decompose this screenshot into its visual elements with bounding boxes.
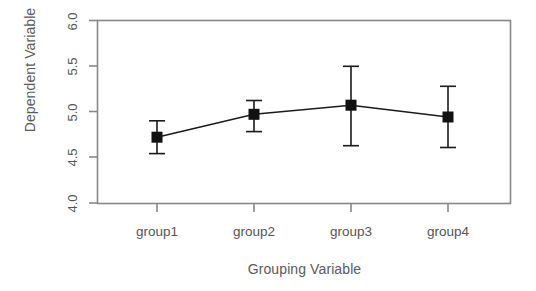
y-axis-ticks xyxy=(89,21,98,204)
chart-figure: 6.0 5.5 5.0 4.5 4.0 group1 group2 group3… xyxy=(0,0,536,291)
marker-group2 xyxy=(249,109,260,120)
marker-group4 xyxy=(443,112,454,123)
plot-canvas xyxy=(0,0,536,291)
y-tick-label-3: 5.5 xyxy=(65,50,80,84)
marker-group3 xyxy=(346,100,357,111)
x-axis-ticks xyxy=(157,204,448,213)
x-tick-label-group1: group1 xyxy=(112,224,202,239)
x-tick-label-group3: group3 xyxy=(306,224,396,239)
y-tick-label-2: 5.0 xyxy=(65,96,80,130)
y-tick-label-4: 6.0 xyxy=(65,5,80,39)
y-axis-title: Dependent Variable xyxy=(22,0,38,170)
x-axis-title: Grouping Variable xyxy=(97,261,512,277)
marker-group1 xyxy=(152,132,163,143)
x-tick-label-group4: group4 xyxy=(403,224,493,239)
x-tick-label-group2: group2 xyxy=(209,224,299,239)
y-tick-label-1: 4.5 xyxy=(65,141,80,175)
y-tick-label-0: 4.0 xyxy=(65,187,80,221)
